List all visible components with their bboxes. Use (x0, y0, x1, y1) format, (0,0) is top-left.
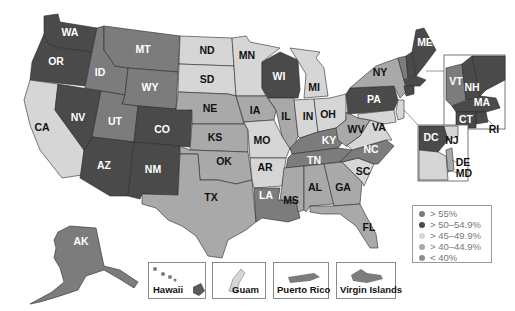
state-label-wi: WI (273, 70, 286, 82)
state-label-nc: NC (363, 143, 379, 155)
state-label-va: VA (372, 121, 386, 133)
state-label-al: AL (308, 181, 323, 193)
legend-item: > 40–44.9% (419, 241, 491, 252)
legend-label: < 40% (430, 252, 457, 263)
state-label-ks: KS (208, 131, 223, 143)
state-label-pa: PA (367, 93, 381, 105)
legend-swatch (419, 211, 425, 217)
state-label-mt: MT (135, 43, 151, 55)
state-label-or: OR (48, 55, 64, 67)
state-label-ne: NE (203, 102, 218, 114)
state-label-inset-nj: NJ (445, 134, 459, 146)
territory-hawaii[interactable]: Hawaii (148, 262, 206, 299)
state-label-co: CO (154, 123, 170, 135)
state-label-nm: NM (145, 163, 162, 175)
state-label-ga: GA (335, 181, 351, 193)
state-label-ia: IA (250, 104, 261, 116)
state-label-inset-md: MD (456, 167, 473, 179)
inset-state-md[interactable] (419, 150, 448, 180)
state-label-tn: TN (307, 154, 321, 166)
territory-label-puerto-rico: Puerto Rico (277, 284, 330, 295)
legend: > 55% > 50–54.9% > 45–49.9% > 40–44.9% <… (412, 205, 492, 263)
state-label-inset-ma: MA (474, 96, 491, 108)
state-ct[interactable] (404, 86, 414, 96)
state-label-wa: WA (62, 26, 79, 38)
state-label-inset-dc: DC (423, 131, 439, 143)
state-label-ak: AK (73, 235, 89, 247)
state-label-ok: OK (216, 155, 232, 167)
state-label-ms: MS (283, 194, 299, 206)
legend-label: > 45–49.9% (430, 230, 481, 241)
state-label-fl: FL (363, 221, 376, 233)
territory-puerto-rico[interactable]: Puerto Rico (273, 262, 329, 299)
legend-item: > 45–49.9% (419, 230, 491, 241)
territory-label-hawaii: Hawaii (153, 284, 183, 295)
legend-swatch (419, 244, 425, 250)
state-label-in: IN (303, 110, 314, 122)
legend-swatch (419, 255, 425, 261)
legend-item: < 40% (419, 252, 491, 263)
state-label-sd: SD (200, 73, 215, 85)
state-label-ut: UT (108, 115, 123, 127)
state-label-ca: CA (34, 121, 50, 133)
legend-item: > 55% (419, 208, 491, 219)
state-label-nd: ND (199, 44, 215, 56)
legend-label: > 55% (430, 208, 457, 219)
territory-virgin-islands[interactable]: Virgin Islands (336, 262, 396, 299)
state-label-nv: NV (71, 111, 86, 123)
state-label-mi: MI (308, 81, 320, 93)
state-label-oh: OH (320, 108, 336, 120)
state-label-la: LA (259, 189, 273, 201)
state-label-me: ME (417, 36, 433, 48)
state-label-id: ID (95, 66, 106, 78)
state-label-inset-nh: NH (464, 81, 479, 93)
state-nj[interactable] (396, 100, 404, 120)
territory-label-guam: Guam (232, 284, 259, 295)
state-label-il: IL (281, 110, 291, 122)
state-label-ar: AR (257, 161, 273, 173)
state-label-mn: MN (239, 49, 255, 61)
state-label-inset-ct: CT (459, 113, 474, 125)
territory-label-virgin-islands: Virgin Islands (340, 284, 402, 295)
state-label-ky: KY (322, 134, 337, 146)
territory-guam[interactable]: Guam (212, 262, 266, 299)
state-label-az: AZ (97, 159, 112, 171)
legend-swatch (419, 222, 425, 228)
state-label-tx: TX (204, 191, 217, 203)
legend-label: > 50–54.9% (430, 219, 481, 230)
state-label-inset-ri: RI (489, 123, 500, 135)
state-label-ny: NY (373, 66, 388, 78)
state-label-sc: SC (356, 165, 371, 177)
state-label-mo: MO (254, 134, 271, 146)
legend-item: > 50–54.9% (419, 219, 491, 230)
state-label-wv: WV (348, 123, 365, 135)
state-label-wy: WY (142, 81, 159, 93)
legend-swatch (419, 233, 425, 239)
legend-label: > 40–44.9% (430, 241, 481, 252)
state-label-inset-vt: VT (449, 75, 463, 87)
